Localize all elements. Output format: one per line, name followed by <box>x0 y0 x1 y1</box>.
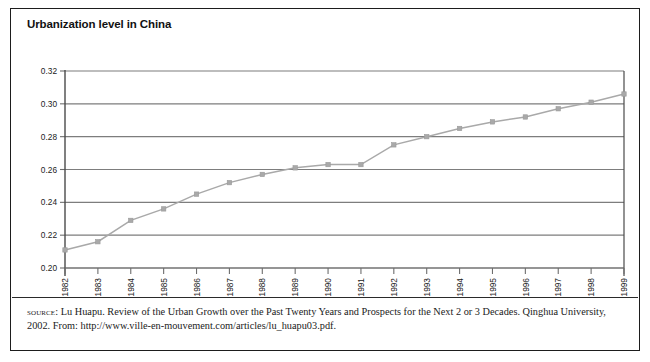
x-axis-tick-label: 1998 <box>586 278 596 297</box>
data-point-marker <box>227 180 231 184</box>
data-series-line <box>65 94 624 250</box>
data-point-marker <box>326 162 330 166</box>
source-text: Lu Huapu. Review of the Urban Growth ove… <box>27 306 606 331</box>
x-axis-tick-label: 1985 <box>159 278 169 297</box>
x-axis-tick-label: 1989 <box>290 278 300 297</box>
data-point-marker <box>556 107 560 111</box>
source-label: source: <box>27 306 58 317</box>
y-axis-tick-label: 0.30 <box>41 99 58 109</box>
x-axis-tick-label: 1991 <box>356 278 366 297</box>
x-axis-tick-label: 1994 <box>455 278 465 297</box>
x-axis-tick-label: 1993 <box>422 278 432 297</box>
data-point-marker <box>161 207 165 211</box>
y-axis-tick-label: 0.32 <box>41 66 58 76</box>
line-chart-svg: 0.200.220.240.260.280.300.32 19821983198… <box>11 9 641 299</box>
x-axis-tick-label: 1983 <box>93 278 103 297</box>
x-axis-tick-label: 1995 <box>488 278 498 297</box>
x-axis-tick-label: 1984 <box>126 278 136 297</box>
source-note: source: Lu Huapu. Review of the Urban Gr… <box>27 305 627 334</box>
y-axis-group: 0.200.220.240.260.280.300.32 <box>41 66 624 276</box>
data-point-marker <box>260 172 264 176</box>
chart-plot-area: 0.200.220.240.260.280.300.32 19821983198… <box>11 9 641 352</box>
data-point-marker <box>589 100 593 104</box>
y-axis-tick-label: 0.22 <box>41 230 58 240</box>
data-point-marker <box>129 218 133 222</box>
x-axis-tick-label: 1999 <box>619 278 629 297</box>
x-axis-tick-label: 1992 <box>389 278 399 297</box>
x-axis-tick-label: 1986 <box>192 278 202 297</box>
data-point-marker <box>63 248 67 252</box>
data-point-marker <box>622 92 626 96</box>
x-axis-tick-label: 1996 <box>521 278 531 297</box>
note-divider <box>12 297 638 298</box>
x-axis-tick-label: 1982 <box>60 278 70 297</box>
data-point-marker <box>490 120 494 124</box>
data-point-marker <box>194 192 198 196</box>
figure-frame: Urbanization level in China 0.200.220.24… <box>10 8 640 351</box>
x-axis-tick-label: 1990 <box>323 278 333 297</box>
data-point-marker <box>425 134 429 138</box>
y-axis-tick-label: 0.28 <box>41 132 58 142</box>
figure-page: Urbanization level in China 0.200.220.24… <box>0 0 650 362</box>
data-point-marker <box>359 162 363 166</box>
data-point-marker <box>293 166 297 170</box>
x-axis-tick-label: 1987 <box>225 278 235 297</box>
data-line-group <box>65 94 624 250</box>
data-markers-group <box>63 92 626 252</box>
y-axis-tick-label: 0.20 <box>41 263 58 273</box>
x-axis-tick-label: 1988 <box>257 278 267 297</box>
data-point-marker <box>392 143 396 147</box>
data-point-marker <box>523 115 527 119</box>
gridlines-group <box>65 71 624 268</box>
data-point-marker <box>457 126 461 130</box>
x-axis-group: 1982198319841985198619871988198919901991… <box>60 268 629 296</box>
data-point-marker <box>96 240 100 244</box>
y-axis-tick-label: 0.26 <box>41 165 58 175</box>
y-axis-tick-label: 0.24 <box>41 197 58 207</box>
x-axis-tick-label: 1997 <box>553 278 563 297</box>
